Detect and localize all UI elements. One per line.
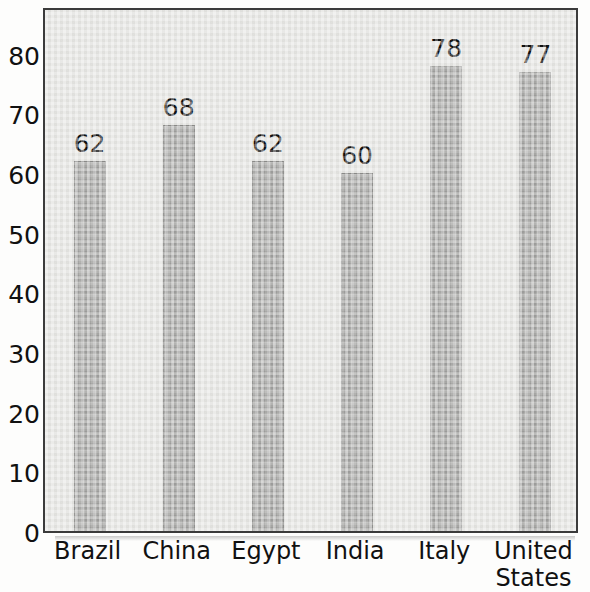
value-label-italy: 78 bbox=[430, 36, 462, 61]
value-label-united-states: 77 bbox=[520, 42, 552, 67]
bar-china[interactable] bbox=[163, 125, 195, 531]
y-axis: 80 70 60 50 40 30 20 10 0 bbox=[0, 0, 40, 592]
y-tick-label-80: 80 bbox=[0, 43, 40, 68]
value-label-china: 68 bbox=[163, 95, 195, 120]
y-tick-label-70: 70 bbox=[0, 103, 40, 128]
bar-united-states[interactable] bbox=[519, 72, 551, 531]
x-axis: Brazil China Egypt India Italy United St… bbox=[43, 536, 578, 592]
bar-egypt[interactable] bbox=[252, 161, 284, 531]
bar-chart-figure: 80 70 60 50 40 30 20 10 0 62 68 62 60 78… bbox=[0, 0, 590, 592]
value-label-india: 60 bbox=[341, 143, 373, 168]
bar-brazil[interactable] bbox=[74, 161, 106, 531]
x-tick-label-italy: Italy bbox=[418, 538, 470, 565]
y-tick-label-50: 50 bbox=[0, 222, 40, 247]
y-tick-label-40: 40 bbox=[0, 282, 40, 307]
x-tick-label-united-states: United States bbox=[494, 538, 573, 592]
y-tick-label-10: 10 bbox=[0, 461, 40, 486]
bar-india[interactable] bbox=[341, 173, 373, 531]
y-tick-label-0: 0 bbox=[0, 521, 40, 546]
y-tick-label-30: 30 bbox=[0, 342, 40, 367]
x-tick-label-china: China bbox=[142, 538, 211, 565]
value-label-brazil: 62 bbox=[74, 131, 106, 156]
y-tick-label-60: 60 bbox=[0, 163, 40, 188]
value-label-egypt: 62 bbox=[252, 131, 284, 156]
x-tick-label-india: India bbox=[326, 538, 385, 565]
bar-italy[interactable] bbox=[430, 66, 462, 531]
plot-area: 62 68 62 60 78 77 bbox=[45, 10, 576, 531]
x-tick-label-brazil: Brazil bbox=[54, 538, 121, 565]
y-tick-label-20: 20 bbox=[0, 401, 40, 426]
x-tick-label-egypt: Egypt bbox=[231, 538, 300, 565]
plot-frame: 62 68 62 60 78 77 bbox=[43, 8, 578, 533]
